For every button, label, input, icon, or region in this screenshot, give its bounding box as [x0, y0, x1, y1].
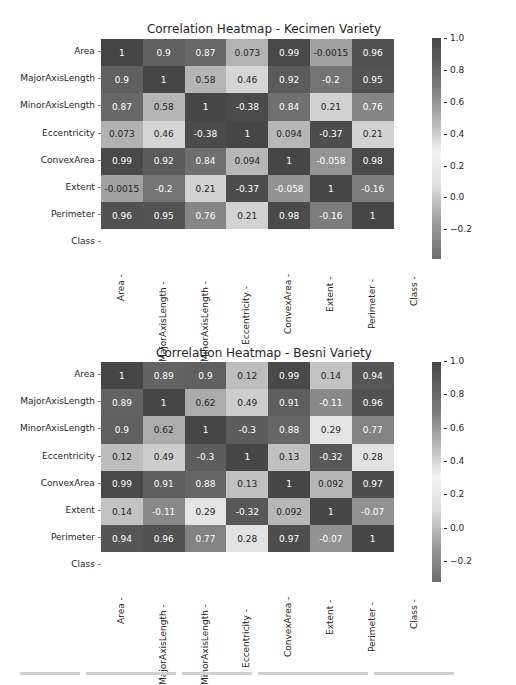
heatmap-cell: 0.58: [185, 66, 227, 93]
heatmap-cell: 0.99: [101, 148, 143, 175]
heatmap-cell: 0.12: [101, 444, 143, 471]
heatmap-cell: 0.87: [185, 39, 227, 66]
heatmap-cell: 1: [310, 498, 352, 525]
heatmap-cell: 0.76: [185, 202, 227, 229]
heatmap-cell: -0.37: [310, 121, 352, 148]
colorbar-tick-label: 0.2: [444, 161, 464, 171]
chart-title: Correlation Heatmap - Kecimen Variety: [147, 22, 381, 36]
heatmap-cell: -0.32: [310, 444, 352, 471]
colorbar-tick-label: 0.6: [444, 97, 464, 107]
figure-caption-placeholder: [20, 660, 496, 670]
heatmap-cell: 0.77: [352, 416, 394, 443]
heatmap-cell: -0.3: [185, 444, 227, 471]
heatmap-cell: 1: [185, 93, 227, 120]
heatmap-cell: 0.29: [185, 498, 227, 525]
colorbar-tick-label: −0.2: [444, 556, 472, 566]
y-tick-label: MinorAxisLength -: [20, 100, 101, 110]
colorbar-tick-label: 0.4: [444, 129, 464, 139]
heatmap-cell: 0.21: [185, 175, 227, 202]
heatmap-cell: -0.07: [352, 498, 394, 525]
heatmap-cell: -0.37: [226, 175, 268, 202]
colorbar: [432, 362, 441, 582]
heatmap-cell: -0.32: [226, 498, 268, 525]
heatmap-cell: 0.92: [143, 148, 185, 175]
y-tick-label: ConvexArea -: [41, 155, 101, 165]
heatmap-cell: [143, 552, 185, 579]
y-tick-label: Eccentricity -: [42, 128, 101, 138]
heatmap-cell: 0.87: [101, 93, 143, 120]
y-tick-label: MinorAxisLength -: [20, 423, 101, 433]
heatmap-grid: 10.890.90.120.990.140.940.8910.620.490.9…: [101, 362, 394, 580]
y-tick-label: Class -: [71, 559, 101, 569]
heatmap-cell: 0.94: [101, 525, 143, 552]
colorbar-tick-label: 0.6: [444, 423, 464, 433]
heatmap-cell: 0.9: [101, 66, 143, 93]
heatmap-cell: -0.07: [310, 525, 352, 552]
heatmap-grid: 10.90.870.0730.99-0.00150.960.910.580.46…: [101, 39, 394, 257]
colorbar-tick-label: 0.8: [444, 389, 464, 399]
y-tick-label: Class -: [71, 236, 101, 246]
heatmap-cell: [352, 229, 394, 256]
heatmap-cell: 0.99: [101, 471, 143, 498]
heatmap-cell: 1: [268, 148, 310, 175]
heatmap-cell: 0.14: [310, 362, 352, 389]
heatmap-cell: [143, 229, 185, 256]
heatmap-cell: 0.21: [352, 121, 394, 148]
heatmap-cell: -0.058: [310, 148, 352, 175]
heatmap-cell: 0.91: [268, 389, 310, 416]
heatmap-cell: 0.094: [268, 121, 310, 148]
heatmap-cell: 0.76: [352, 93, 394, 120]
x-tick-label: Extent -: [325, 599, 335, 634]
heatmap-cell: -0.058: [268, 175, 310, 202]
x-tick-label: Perimeter -: [367, 602, 377, 652]
heatmap-cell: [226, 229, 268, 256]
heatmap-cell: 0.9: [143, 39, 185, 66]
x-tick-label: Class -: [409, 599, 419, 629]
heatmap-cell: 1: [268, 471, 310, 498]
heatmap-cell: -0.2: [310, 66, 352, 93]
heatmap-cell: [101, 552, 143, 579]
heatmap-cell: 0.62: [185, 389, 227, 416]
heatmap-cell: 0.073: [101, 121, 143, 148]
heatmap-cell: -0.3: [226, 416, 268, 443]
chart-title: Correlation Heatmap - Besni Variety: [156, 346, 372, 360]
heatmap-cell: 1: [143, 389, 185, 416]
heatmap-cell: -0.16: [352, 175, 394, 202]
x-tick-label: ConvexArea -: [283, 274, 293, 334]
heatmap-cell: -0.0015: [310, 39, 352, 66]
colorbar-tick-label: 1.0: [444, 33, 464, 43]
y-tick-label: MajorAxisLength -: [20, 73, 101, 83]
heatmap-cell: 0.96: [101, 202, 143, 229]
heatmap-cell: 0.9: [101, 416, 143, 443]
heatmap-cell: 0.99: [268, 39, 310, 66]
heatmap-cell: 0.21: [226, 202, 268, 229]
heatmap-cell: [185, 552, 227, 579]
heatmap-cell: 0.98: [268, 202, 310, 229]
heatmap-cell: 0.94: [352, 362, 394, 389]
y-tick-label: Perimeter -: [51, 532, 101, 542]
colorbar-tick-label: 0.4: [444, 456, 464, 466]
colorbar-tick-label: 0.0: [444, 192, 464, 202]
heatmap-cell: 1: [226, 121, 268, 148]
heatmap-cell: 0.92: [268, 66, 310, 93]
heatmap-cell: [310, 552, 352, 579]
heatmap-cell: 0.96: [143, 525, 185, 552]
heatmap-cell: 0.094: [226, 148, 268, 175]
x-tick-label: Extent -: [325, 276, 335, 311]
heatmap-cell: 0.62: [143, 416, 185, 443]
heatmap-cell: 0.49: [143, 444, 185, 471]
heatmap-cell: 0.21: [310, 93, 352, 120]
heatmap-cell: [352, 552, 394, 579]
heatmap-cell: -0.11: [310, 389, 352, 416]
heatmap-cell: -0.16: [310, 202, 352, 229]
y-tick-label: ConvexArea -: [41, 478, 101, 488]
colorbar-tick-label: 0.8: [444, 65, 464, 75]
colorbar-tick-label: 1.0: [444, 356, 464, 366]
heatmap-cell: 0.84: [185, 148, 227, 175]
y-tick-label: MajorAxisLength -: [20, 396, 101, 406]
heatmap-cell: 0.77: [185, 525, 227, 552]
heatmap-cell: 0.28: [352, 444, 394, 471]
heatmap-cell: [226, 552, 268, 579]
heatmap-cell: -0.38: [226, 93, 268, 120]
heatmap-cell: 0.28: [226, 525, 268, 552]
